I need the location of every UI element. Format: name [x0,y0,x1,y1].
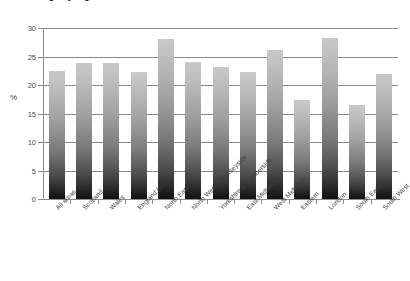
gridline [43,57,398,58]
plot-area [43,28,398,199]
bar[interactable] [158,39,174,199]
y-tick-mark [38,28,44,29]
bar[interactable] [76,63,92,199]
bar[interactable] [322,38,338,199]
x-tick-mark [125,199,126,204]
x-tick-mark [371,199,372,204]
bar[interactable] [103,63,119,199]
bar[interactable] [131,72,147,199]
y-tick-label: 0 [6,195,36,204]
x-tick-mark [180,199,181,204]
x-tick-mark [98,199,99,204]
y-tick-mark [38,199,44,200]
y-tick-mark [38,114,44,115]
y-axis-tick-labels: 051015202530 [0,28,36,199]
x-tick-mark [289,199,290,204]
bar[interactable] [185,62,201,199]
x-tick-mark [261,199,262,204]
x-tick-mark [70,199,71,204]
y-tick-mark [38,57,44,58]
x-tick-mark [316,199,317,204]
y-tick-label: 10 [6,138,36,147]
bar[interactable] [49,71,65,199]
y-tick-mark [38,171,44,172]
x-tick-mark [152,199,153,204]
x-tick-mark [234,199,235,204]
y-tick-label: 15 [6,110,36,119]
y-tick-label: 20 [6,81,36,90]
y-tick-mark [38,142,44,143]
bar-chart-figure: Percentage by region % 051015202530 All … [0,0,410,281]
gridline [43,28,398,29]
y-tick-label: 5 [6,167,36,176]
bar[interactable] [349,105,365,199]
x-tick-mark [343,199,344,204]
y-tick-mark [38,85,44,86]
chart-title: Percentage by region [10,0,104,1]
y-tick-label: 30 [6,24,36,33]
y-tick-label: 25 [6,53,36,62]
bar[interactable] [376,74,392,199]
x-tick-mark [207,199,208,204]
